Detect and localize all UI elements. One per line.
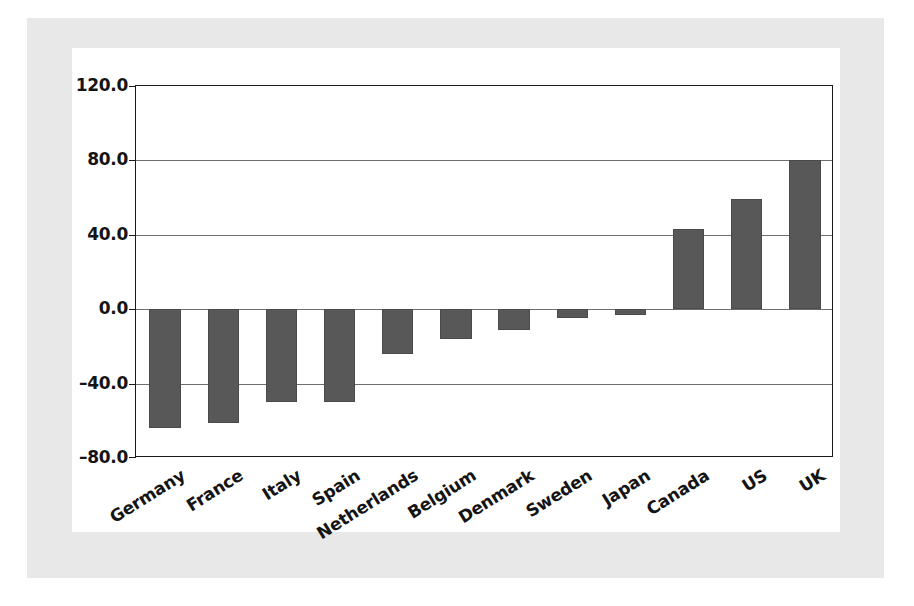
bar xyxy=(498,309,529,329)
gridline xyxy=(136,384,832,385)
gridline xyxy=(136,309,832,310)
y-axis-tick-mark xyxy=(129,86,136,87)
y-axis-tick-label: 120.0 xyxy=(76,75,128,95)
y-axis-tick-mark xyxy=(129,384,136,385)
y-axis-tick-label: 40.0 xyxy=(87,224,128,244)
scanned-page: 120.080.040.00.0–40.0–80.0 GermanyFrance… xyxy=(0,0,914,606)
x-axis-tick-label: Sweden xyxy=(522,465,595,521)
y-axis-tick-label: –40.0 xyxy=(79,373,128,393)
bar xyxy=(324,309,355,402)
bar xyxy=(789,160,820,309)
y-axis-tick-label: –80.0 xyxy=(79,447,128,467)
bar xyxy=(266,309,297,402)
x-axis-tick-label: UK xyxy=(795,465,828,496)
x-axis-tick-label: France xyxy=(183,465,247,515)
gridline xyxy=(136,235,832,236)
bar xyxy=(557,309,588,318)
bar xyxy=(208,309,239,422)
y-axis-tick-label: 80.0 xyxy=(87,149,128,169)
x-axis-tick-label: Canada xyxy=(642,465,712,519)
x-axis-labels: GermanyFranceItalySpainNetherlandsBelgiu… xyxy=(135,457,833,532)
chart-paper: 120.080.040.00.0–40.0–80.0 GermanyFrance… xyxy=(72,48,840,532)
y-axis-tick-mark xyxy=(129,235,136,236)
x-axis-tick-label: Italy xyxy=(259,465,305,504)
bar xyxy=(382,309,413,354)
plot-area xyxy=(135,85,833,457)
bar xyxy=(615,309,646,315)
x-axis-tick-label: Germany xyxy=(106,465,189,527)
bar xyxy=(731,199,762,309)
bar xyxy=(440,309,471,339)
bar xyxy=(149,309,180,428)
y-axis-tick-mark xyxy=(129,309,136,310)
x-axis-tick-label: US xyxy=(738,465,770,496)
y-axis-tick-label: 0.0 xyxy=(99,298,128,318)
gridline xyxy=(136,160,832,161)
bar xyxy=(673,229,704,309)
y-axis-labels: 120.080.040.00.0–40.0–80.0 xyxy=(72,85,128,457)
y-axis-tick-mark xyxy=(129,160,136,161)
bar-chart: 120.080.040.00.0–40.0–80.0 GermanyFrance… xyxy=(72,48,840,532)
